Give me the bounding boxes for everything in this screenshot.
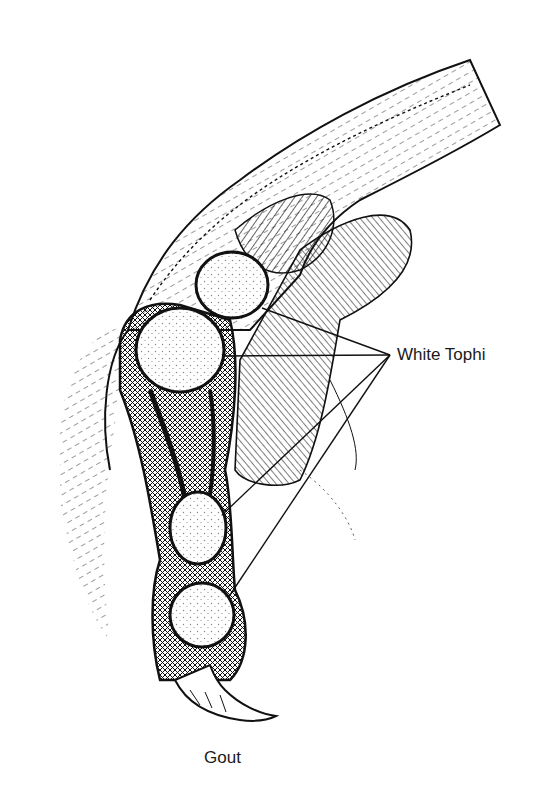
- figure-caption: Gout: [204, 748, 241, 768]
- gout-finger-illustration: [0, 0, 539, 808]
- leader-line-2: [225, 355, 390, 356]
- palm-edge: [60, 328, 128, 640]
- callout-label-white-tophi: White Tophi: [397, 345, 486, 365]
